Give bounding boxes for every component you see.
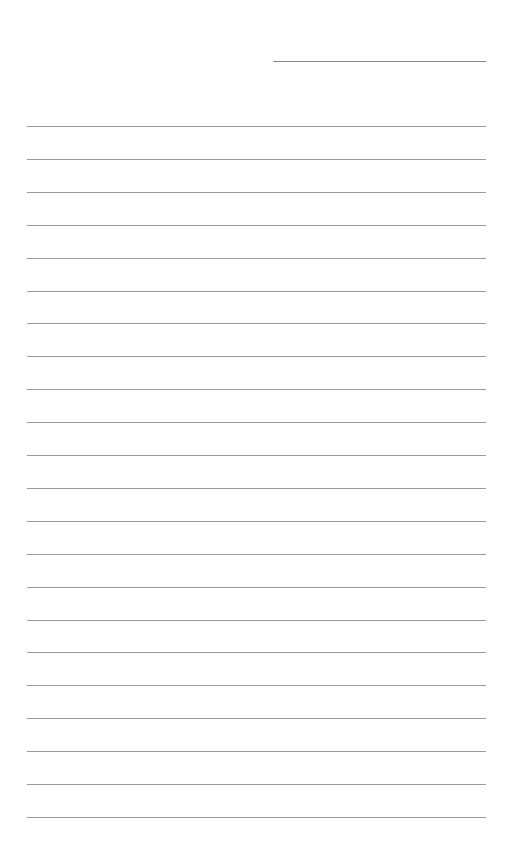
ruled-line (27, 784, 486, 785)
ruled-line (27, 126, 486, 127)
ruled-line (27, 488, 486, 489)
ruled-line (27, 225, 486, 226)
ruled-line (27, 751, 486, 752)
ruled-line (27, 356, 486, 357)
ruled-line (27, 389, 486, 390)
ruled-line (27, 685, 486, 686)
ruled-line (27, 192, 486, 193)
ruled-line (27, 455, 486, 456)
ruled-line (27, 291, 486, 292)
ruled-line (27, 258, 486, 259)
ruled-line (27, 422, 486, 423)
ruled-line (27, 620, 486, 621)
ruled-line (27, 718, 486, 719)
ruled-line (27, 652, 486, 653)
ruled-line (27, 323, 486, 324)
ruled-line (27, 159, 486, 160)
ruled-line (27, 554, 486, 555)
ruled-line (27, 521, 486, 522)
ruled-line (27, 817, 486, 818)
header-name-line (273, 61, 486, 62)
ruled-line (27, 587, 486, 588)
